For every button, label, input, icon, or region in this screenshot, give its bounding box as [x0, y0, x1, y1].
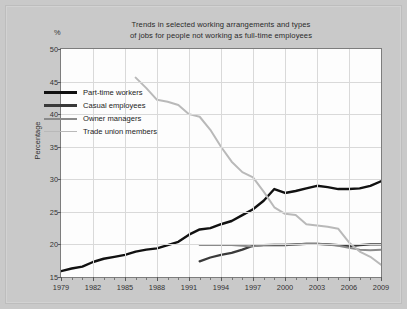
gridline-vertical — [349, 49, 350, 277]
x-axis-tick-label: 2009 — [373, 283, 389, 292]
x-axis-tick-minor — [72, 277, 73, 280]
x-axis-tick-minor — [168, 277, 169, 280]
y-axis-tick-mark — [58, 147, 61, 148]
x-axis-tick-label: 2006 — [341, 283, 357, 292]
x-axis-tick-major — [189, 277, 190, 281]
x-axis-tick-minor — [232, 277, 233, 280]
y-axis-tick-label: 30 — [50, 175, 58, 184]
y-axis-tick-mark — [58, 244, 61, 245]
gridline-vertical — [93, 49, 94, 277]
legend-item: Casual employees — [44, 99, 157, 112]
y-axis-tick-label: 45 — [50, 77, 58, 86]
percent-unit-label: % — [54, 28, 61, 37]
x-axis-tick-label: 1979 — [53, 283, 69, 292]
x-axis-tick-major — [285, 277, 286, 281]
legend-item: Trade union members — [44, 125, 157, 138]
chart-title: Trends in selected working arrangements … — [76, 20, 366, 41]
legend-item-label: Casual employees — [83, 101, 145, 110]
x-axis-tick-minor — [370, 277, 371, 280]
x-axis-tick-minor — [146, 277, 147, 280]
x-axis-tick-minor — [210, 277, 211, 280]
x-axis-tick-major — [221, 277, 222, 281]
x-axis-tick-label: 1982 — [85, 283, 101, 292]
chart-title-line-2: of jobs for people not working as full-t… — [130, 31, 312, 40]
x-axis-tick-major — [317, 277, 318, 281]
gridline-vertical — [317, 49, 318, 277]
gridline-vertical — [189, 49, 190, 277]
x-axis-tick-major — [349, 277, 350, 281]
gridline-vertical — [253, 49, 254, 277]
y-axis-tick-label: 25 — [50, 207, 58, 216]
figure-frame: Trends in selected working arrangements … — [5, 5, 402, 304]
x-axis-tick-label: 1988 — [149, 283, 165, 292]
x-axis-tick-major — [253, 277, 254, 281]
x-axis-tick-major — [61, 277, 62, 281]
legend-swatch-line — [44, 118, 77, 120]
chart-title-line-1: Trends in selected working arrangements … — [132, 20, 311, 29]
y-axis-tick-label: 35 — [50, 142, 58, 151]
x-axis-tick-minor — [136, 277, 137, 280]
x-axis-tick-minor — [360, 277, 361, 280]
x-axis-tick-minor — [82, 277, 83, 280]
x-axis-tick-label: 2000 — [277, 283, 293, 292]
plot-area: 1520253035404550 19791982198519881991199… — [60, 48, 382, 278]
y-axis-tick-mark — [58, 49, 61, 50]
x-axis-tick-minor — [104, 277, 105, 280]
y-axis-label: Percentage — [33, 101, 42, 181]
x-axis-tick-label: 1997 — [245, 283, 261, 292]
y-axis-tick-mark — [58, 212, 61, 213]
chart-legend: Part-time workersCasual employeesOwner m… — [44, 86, 157, 138]
x-axis-tick-minor — [114, 277, 115, 280]
y-axis-tick-label: 20 — [50, 240, 58, 249]
y-axis-tick-label: 15 — [50, 273, 58, 282]
x-axis-tick-label: 1985 — [117, 283, 133, 292]
x-axis-tick-label: 2003 — [309, 283, 325, 292]
legend-item-label: Owner managers — [83, 114, 141, 123]
x-axis-tick-major — [157, 277, 158, 281]
x-axis-tick-minor — [338, 277, 339, 280]
legend-swatch-line — [44, 91, 77, 94]
x-axis-tick-minor — [296, 277, 297, 280]
x-axis-tick-minor — [264, 277, 265, 280]
gridline-vertical — [157, 49, 158, 277]
x-axis-tick-minor — [200, 277, 201, 280]
legend-item-label: Trade union members — [83, 127, 157, 136]
x-axis-tick-minor — [306, 277, 307, 280]
chart-figure: Trends in selected working arrangements … — [6, 6, 403, 305]
y-axis-tick-mark — [58, 82, 61, 83]
series-line — [136, 78, 381, 265]
x-axis-tick-major — [93, 277, 94, 281]
x-axis-tick-major — [381, 277, 382, 281]
legend-item: Part-time workers — [44, 86, 157, 99]
gridline-vertical — [125, 49, 126, 277]
x-axis-tick-major — [125, 277, 126, 281]
gridline-vertical — [285, 49, 286, 277]
x-axis-tick-minor — [242, 277, 243, 280]
gridline-vertical — [221, 49, 222, 277]
x-axis-tick-minor — [274, 277, 275, 280]
y-axis-tick-label: 50 — [50, 45, 58, 54]
x-axis-tick-minor — [328, 277, 329, 280]
x-axis-tick-label: 1994 — [213, 283, 229, 292]
x-axis-tick-minor — [178, 277, 179, 280]
legend-swatch-line — [44, 131, 77, 133]
y-axis-tick-mark — [58, 179, 61, 180]
legend-item-label: Part-time workers — [83, 88, 143, 97]
legend-item: Owner managers — [44, 112, 157, 125]
x-axis-tick-label: 1991 — [181, 283, 197, 292]
legend-swatch-line — [44, 104, 77, 107]
